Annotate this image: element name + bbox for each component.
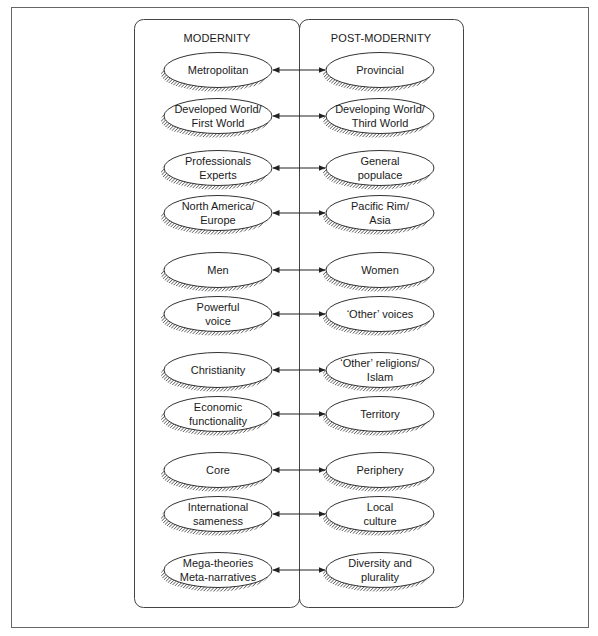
node-label: ‘Other’ religions/ [340, 357, 420, 369]
postmodernity-node: Generalpopulace [323, 151, 434, 190]
concept-pair-row: Powerfulvoice‘Other’ voices [161, 297, 434, 336]
node-label: voice [205, 315, 231, 327]
node-label: Christianity [191, 364, 246, 376]
modernity-node: Economicfunctionality [161, 397, 272, 436]
modernity-node: Metropolitan [161, 53, 272, 92]
concept-pair-row: MetropolitanProvincial [161, 53, 434, 92]
node-label: Third World [352, 117, 409, 129]
modernity-node: Core [161, 453, 272, 492]
modernity-node: North America/Europe [161, 196, 272, 235]
node-label: sameness [193, 515, 244, 527]
modernity-postmodernity-diagram: MODERNITY POST-MODERNITY MetropolitanPro… [0, 0, 598, 636]
modernity-node: Christianity [161, 353, 272, 392]
node-label: Local [367, 501, 393, 513]
node-label: Meta-narratives [180, 571, 257, 583]
postmodernity-node: Provincial [323, 53, 434, 92]
node-label: Powerful [197, 301, 240, 313]
node-label: Islam [367, 371, 393, 383]
node-label: Pacific Rim/ [351, 200, 410, 212]
node-label: General [360, 155, 399, 167]
modernity-heading: MODERNITY [184, 32, 251, 44]
node-label: Developing World/ [335, 103, 426, 115]
node-label: Europe [200, 214, 235, 226]
concept-pair-row: North America/EuropePacific Rim/Asia [161, 196, 434, 235]
postmodernity-heading: POST-MODERNITY [331, 32, 432, 44]
node-label: Economic [194, 401, 243, 413]
node-label: Experts [199, 169, 237, 181]
node-label: Diversity and [348, 557, 412, 569]
modernity-node: Mega-theoriesMeta-narratives [161, 553, 272, 592]
node-label: Core [206, 464, 230, 476]
node-label: Men [207, 264, 228, 276]
node-label: plurality [361, 571, 399, 583]
node-label: Professionals [185, 155, 252, 167]
node-label: North America/ [182, 200, 256, 212]
postmodernity-node: Pacific Rim/Asia [323, 196, 434, 235]
concept-pair-row: Christianity‘Other’ religions/Islam [161, 353, 434, 392]
node-label: ‘Other’ voices [347, 308, 414, 320]
node-label: Territory [360, 408, 400, 420]
postmodernity-node: ‘Other’ religions/Islam [323, 353, 434, 392]
node-label: Mega-theories [183, 557, 254, 569]
concept-pair-row: EconomicfunctionalityTerritory [161, 397, 434, 436]
node-label: functionality [189, 415, 248, 427]
postmodernity-node: Territory [323, 397, 434, 436]
node-label: First World [192, 117, 245, 129]
modernity-node: Internationalsameness [161, 497, 272, 536]
node-label: Developed World/ [174, 103, 262, 115]
concept-pair-row: InternationalsamenessLocalculture [161, 497, 434, 536]
postmodernity-node: Localculture [323, 497, 434, 536]
node-label: Periphery [356, 464, 404, 476]
postmodernity-node: Periphery [323, 453, 434, 492]
modernity-node: Men [161, 253, 272, 292]
concept-pairs: MetropolitanProvincialDeveloped World/Fi… [161, 53, 434, 592]
modernity-node: ProfessionalsExperts [161, 151, 272, 190]
modernity-node: Powerfulvoice [161, 297, 272, 336]
postmodernity-node: Developing World/Third World [323, 99, 434, 138]
node-label: culture [363, 515, 396, 527]
node-label: International [188, 501, 249, 513]
concept-pair-row: CorePeriphery [161, 453, 434, 492]
node-label: Women [361, 264, 399, 276]
node-label: Metropolitan [188, 64, 249, 76]
node-label: Provincial [356, 64, 404, 76]
node-label: Asia [369, 214, 391, 226]
concept-pair-row: ProfessionalsExpertsGeneralpopulace [161, 151, 434, 190]
postmodernity-node: ‘Other’ voices [323, 297, 434, 336]
postmodernity-node: Women [323, 253, 434, 292]
modernity-node: Developed World/First World [161, 99, 272, 138]
node-label: populace [358, 169, 403, 181]
concept-pair-row: Mega-theoriesMeta-narrativesDiversity an… [161, 553, 434, 592]
concept-pair-row: Developed World/First WorldDeveloping Wo… [161, 99, 434, 138]
postmodernity-node: Diversity andplurality [323, 553, 434, 592]
concept-pair-row: MenWomen [161, 253, 434, 292]
